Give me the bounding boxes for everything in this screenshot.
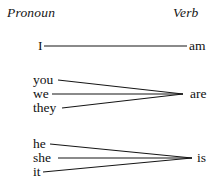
verb-label-is: is [197, 151, 206, 165]
pronoun-label-it: it [33, 165, 41, 179]
verb-label-am: am [189, 39, 206, 53]
pronoun-label-you: you [33, 73, 53, 87]
pronoun-label-they: they [33, 101, 56, 115]
verb-label-are: are [190, 87, 206, 101]
pronoun-label-we: we [33, 87, 49, 101]
pronoun-label-i: I [38, 39, 43, 53]
connector-they-are [62, 94, 183, 108]
connector-you-are [58, 80, 183, 94]
column-header-pronoun: Pronoun [7, 5, 55, 21]
pronoun-verb-agreement-diagram: Pronoun Verb I you we they he she it am … [0, 0, 223, 192]
pronoun-label-he: he [33, 137, 46, 151]
pronoun-label-she: she [33, 151, 51, 165]
connector-he-is [50, 144, 192, 158]
connector-it-is [43, 158, 192, 172]
column-header-verb: Verb [173, 5, 199, 21]
